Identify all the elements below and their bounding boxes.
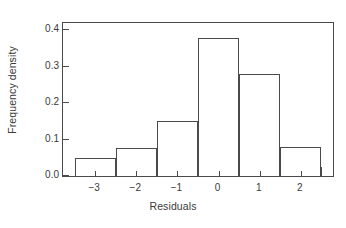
histogram-bar <box>198 38 239 176</box>
x-axis-tick-label: 1 <box>256 182 262 193</box>
x-axis-tick-label: 0 <box>215 182 221 193</box>
x-axis-title-text: Residuals <box>149 200 196 212</box>
x-axis-tick-minor <box>301 171 302 176</box>
y-axis-tick-label: 0.1 <box>45 133 59 144</box>
y-axis-tick: 0.4 <box>63 29 69 30</box>
x-axis-tick-minor <box>95 171 96 176</box>
x-axis-tick-major <box>116 167 117 176</box>
y-axis-title: Frequency density <box>2 0 22 180</box>
y-axis-title-text: Frequency density <box>6 46 18 134</box>
histogram-bar <box>239 74 280 176</box>
x-axis-tick-minor <box>260 171 261 176</box>
histogram-bar <box>157 121 198 176</box>
x-axis-tick-label: −3 <box>88 182 99 193</box>
y-axis-tick: 0.3 <box>63 66 69 67</box>
x-axis-tick-major <box>157 167 158 176</box>
x-axis-tick-major <box>280 167 281 176</box>
plot-area: 0.00.10.20.30.4 <box>62 22 334 177</box>
x-axis-tick-label: −2 <box>130 182 141 193</box>
x-axis-tick-major <box>239 167 240 176</box>
y-axis-tick: 0.1 <box>63 139 69 140</box>
x-axis-title: Residuals <box>0 200 346 212</box>
x-axis-tick-minor <box>219 171 220 176</box>
x-axis-tick-label: 2 <box>297 182 303 193</box>
x-axis-tick-label: −1 <box>171 182 182 193</box>
y-axis-tick-label: 0.2 <box>45 96 59 107</box>
histogram-figure: Frequency density 0.00.10.20.30.4 −3−2−1… <box>0 0 346 228</box>
x-axis-tick-major <box>321 167 322 176</box>
y-axis-tick-label: 0.0 <box>45 169 59 180</box>
x-axis-tick-major <box>75 167 76 176</box>
x-axis-tick-major <box>198 167 199 176</box>
y-axis-tick-label: 0.4 <box>45 23 59 34</box>
y-axis-tick: 0.0 <box>63 175 69 176</box>
y-axis-tick-label: 0.3 <box>45 60 59 71</box>
x-axis-tick-minor <box>177 171 178 176</box>
y-axis-tick: 0.2 <box>63 102 69 103</box>
x-axis-tick-minor <box>136 171 137 176</box>
